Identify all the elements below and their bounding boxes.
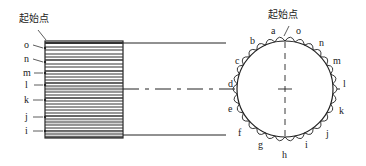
circle-label-l: l <box>343 78 346 89</box>
coil-block <box>45 41 123 138</box>
circle-label-g: g <box>258 139 263 150</box>
circle-label-k: k <box>339 105 344 116</box>
coil-cross-section <box>233 37 337 141</box>
start-point-label-right: 起始点 <box>268 8 298 20</box>
left-label-m: m <box>23 67 31 78</box>
circle-label-f: f <box>238 127 242 138</box>
circle-label-h: h <box>282 149 287 160</box>
start-pointer-left <box>38 30 46 40</box>
winding-diagram: 起始点 <box>0 0 366 166</box>
circle-label-d: d <box>228 78 233 89</box>
start-point-label-left: 起始点 <box>19 12 49 24</box>
left-turn-labels: o n m l k j i <box>23 39 46 136</box>
circle-label-e: e <box>228 103 233 114</box>
circle-label-m: m <box>333 55 341 66</box>
circle-label-c: c <box>235 55 240 66</box>
start-pointer-right <box>284 26 289 36</box>
left-label-j: j <box>24 111 28 122</box>
left-label-n: n <box>24 53 29 64</box>
left-label-o: o <box>24 39 29 50</box>
circle-label-j: j <box>325 128 329 139</box>
left-label-l: l <box>25 79 28 90</box>
circle-label-n: n <box>319 37 324 48</box>
left-label-i: i <box>25 125 28 136</box>
circle-label-a: a <box>271 25 276 36</box>
circle-label-b: b <box>250 35 255 46</box>
left-label-k: k <box>24 94 29 105</box>
circle-label-o: o <box>296 25 301 36</box>
circle-label-i: i <box>305 139 308 150</box>
